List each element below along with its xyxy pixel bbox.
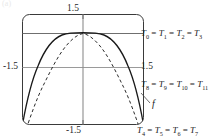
plot-canvas: [0, 0, 212, 139]
figure-container: (a) 1.5 -1.5 1.5 -1.5: [0, 0, 212, 139]
function-label-f: f: [152, 99, 155, 109]
tick-label-bottom: -1.5: [66, 126, 81, 136]
tangent-label-mid-set: T8 = T9 = T10 = T11: [141, 80, 208, 91]
tick-label-top: 1.5: [67, 4, 79, 14]
tangent-label-bottom-set: T4 = T5 = T6 = T7: [137, 126, 198, 137]
f-leader-line: [141, 93, 150, 103]
tick-label-right: 1.5: [141, 62, 153, 72]
tick-label-left: -1.5: [3, 62, 18, 72]
tangent-label-top-set: T0 = T1 = T2 = T3: [141, 29, 202, 40]
